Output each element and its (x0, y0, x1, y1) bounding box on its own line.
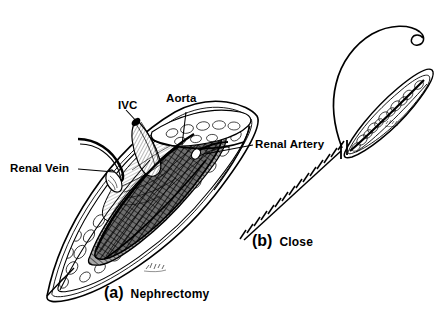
caption-a-letter: (a) (104, 284, 124, 301)
label-aorta: Aorta (166, 93, 197, 105)
caption-b-word: Close (279, 235, 313, 249)
caption-panel-b: (b)Close (252, 233, 313, 249)
caption-a-word: Nephrectomy (131, 287, 210, 301)
caption-panel-a: (a)Nephrectomy (104, 285, 209, 301)
figure-illustration: IVC Aorta Renal Vein Renal Artery (a)Nep… (0, 0, 443, 317)
label-renal-vein: Renal Vein (10, 163, 69, 175)
label-renal-artery: Renal Artery (255, 139, 324, 151)
caption-b-letter: (b) (252, 232, 272, 249)
label-ivc: IVC (118, 100, 137, 112)
surgical-illustration-svg (0, 0, 443, 317)
